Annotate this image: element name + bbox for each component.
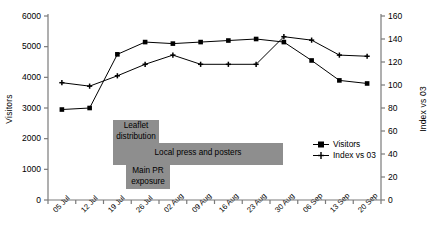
data-point-marker-plus [59,80,64,85]
data-point-marker-plus [198,62,203,67]
data-point-marker-plus [87,84,92,89]
data-point-marker-square [198,40,203,45]
series-line-visitors [62,39,367,110]
data-point-marker-square [282,40,287,45]
data-point-marker-plus [309,38,314,43]
data-point-marker-square [143,40,148,45]
data-point-marker-square [226,38,231,43]
data-point-marker-square [87,106,92,111]
data-point-marker-square [171,41,176,46]
data-point-marker-plus [226,62,231,67]
series-line-index-vs-03 [62,37,367,86]
data-point-marker-plus [115,73,120,78]
data-point-marker-square [309,58,314,63]
annotation-local-press-and-posters: Local press and posters [113,143,283,165]
legend-item-visitors: Visitors [313,139,360,149]
data-point-marker-plus [170,53,175,58]
legend-label-visitors: Visitors [333,139,360,149]
data-point-marker-square [254,37,259,42]
legend-marker-square-icon [313,140,329,149]
data-point-marker-plus [365,54,370,59]
data-point-marker-plus [337,53,342,58]
plot-area [0,0,429,240]
legend-marker-plus-icon [313,151,329,160]
chart-container: Visitors Index vs 03 0100020003000400050… [0,0,429,240]
annotation-main-pr-exposure: Main PR exposure [126,165,170,189]
data-point-marker-square [60,107,65,112]
data-point-marker-square [115,52,120,57]
data-point-marker-square [337,78,342,83]
data-point-marker-square [365,81,370,86]
legend-label-index-vs-03: Index vs 03 [333,150,376,160]
data-point-marker-plus [143,62,148,67]
annotation-leaflet-distribution: Leaflet distribution [113,120,159,144]
legend-item-index-vs-03: Index vs 03 [313,150,376,160]
